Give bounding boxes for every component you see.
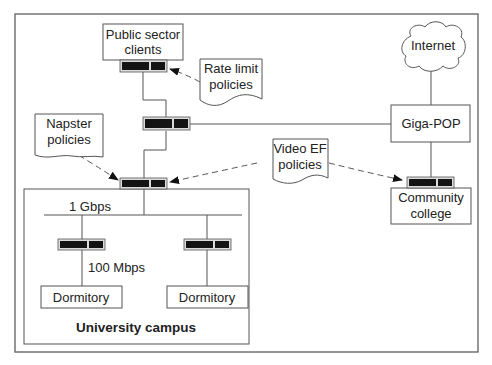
arrow-video-ef-campus <box>170 163 257 182</box>
community-college-label-line1: Community <box>398 190 464 205</box>
internet-label: Internet <box>411 38 455 53</box>
router-dorm-right <box>184 239 231 250</box>
link-public-to-core <box>143 72 166 117</box>
rate-limit-label-line2: policies <box>209 77 253 92</box>
router-dorm-left <box>58 239 105 250</box>
backbone-speed-label: 1 Gbps <box>69 199 111 214</box>
doc-napster-policies: Napster policies <box>35 114 103 157</box>
node-dormitory-right: Dormitory <box>167 286 248 308</box>
router-campus-edge <box>120 178 167 189</box>
campus-label: University campus <box>76 320 196 335</box>
video-ef-label-line1: Video EF <box>273 141 326 156</box>
link-core-to-campus <box>144 131 166 178</box>
napster-label-line1: Napster <box>46 116 92 131</box>
router-community-college <box>407 177 454 188</box>
router-core <box>143 117 190 130</box>
dorm-right-label: Dormitory <box>179 290 236 305</box>
node-public-sector-clients: Public sector clients <box>103 24 183 60</box>
public-sector-label-line2: clients <box>125 42 162 57</box>
dorm-left-label: Dormitory <box>53 290 110 305</box>
node-dormitory-left: Dormitory <box>41 286 122 308</box>
node-giga-pop: Giga-POP <box>391 105 470 142</box>
links <box>44 70 431 286</box>
node-community-college: Community college <box>391 188 471 224</box>
doc-video-ef-policies: Video EF policies <box>273 139 328 183</box>
node-internet-cloud: Internet <box>402 22 465 72</box>
network-diagram: Public sector clients Internet Giga-POP … <box>0 0 492 365</box>
arrow-rate-limit <box>170 69 200 82</box>
rate-limit-label-line1: Rate limit <box>204 61 259 76</box>
public-sector-label-line1: Public sector <box>106 27 181 42</box>
arrow-video-ef-college <box>329 163 402 180</box>
router-public-sector <box>120 60 167 72</box>
dorm-link-speed-label: 100 Mbps <box>88 260 146 275</box>
video-ef-label-line2: policies <box>278 157 322 172</box>
napster-label-line2: policies <box>47 132 91 147</box>
giga-pop-label: Giga-POP <box>401 116 460 131</box>
doc-rate-limit-policies: Rate limit policies <box>200 59 262 105</box>
community-college-label-line2: college <box>410 206 451 221</box>
